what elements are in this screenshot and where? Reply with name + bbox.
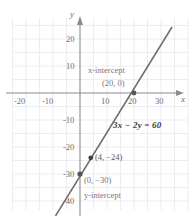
x-tick-30: 30 (155, 97, 164, 106)
y-axis (77, 16, 83, 216)
graph-figure: y x -20 -10 10 20 30 20 10 -10 -20 -30 -… (0, 0, 195, 216)
x-tick-20: 20 (128, 97, 137, 106)
x-intercept-annotation: x-intercept (88, 66, 125, 75)
point-y-intercept (77, 171, 82, 176)
x-intercept-coords: (20, 0) (102, 79, 125, 88)
x-axis-label: x (181, 95, 185, 104)
y-tick--20: -20 (63, 143, 74, 152)
equation-label: 3x − 2y = 60 (113, 121, 161, 130)
y-tick--40: -40 (63, 197, 74, 206)
x-tick--20: -20 (14, 97, 25, 106)
point-x-intercept (132, 91, 137, 96)
y-tick--10: -10 (63, 116, 74, 125)
x-tick--10: -10 (42, 97, 53, 106)
x-tick-10: 10 (101, 97, 110, 106)
y-tick-20: 20 (66, 35, 75, 44)
y-intercept-annotation: y-intercept (84, 191, 121, 200)
y-tick--30: -30 (63, 170, 74, 179)
point-label-4-neg24: (4, −24) (95, 153, 122, 162)
point-4-neg24 (88, 155, 93, 160)
y-intercept-coords: (0, −30) (84, 176, 111, 185)
y-axis-label: y (70, 10, 74, 19)
y-tick-10: 10 (66, 62, 75, 71)
